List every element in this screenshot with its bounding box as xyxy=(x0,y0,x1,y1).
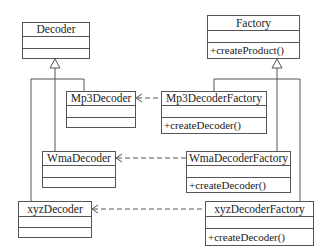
attributes-compartment xyxy=(206,217,313,229)
attributes-compartment xyxy=(187,166,290,178)
class-name: Factory xyxy=(208,16,299,31)
operation: +createProduct() xyxy=(208,43,299,58)
class-name: Decoder xyxy=(23,23,89,37)
attributes-compartment xyxy=(208,31,299,43)
attributes-compartment xyxy=(162,106,266,118)
class-wmadecoderfactory[interactable]: WmaDecoderFactory +createDecoder() xyxy=(186,151,291,193)
generalization-arrow-decoder xyxy=(50,59,60,68)
attributes-compartment xyxy=(19,217,91,228)
class-mp3decoder[interactable]: Mp3Decoder xyxy=(66,91,136,128)
class-xyzdecoder[interactable]: xyzDecoder xyxy=(18,201,92,238)
class-name: WmaDecoder xyxy=(43,152,115,166)
class-name: xyzDecoder xyxy=(19,202,91,217)
attributes-compartment xyxy=(43,166,115,178)
attributes-compartment xyxy=(67,106,135,118)
class-name: Mp3Decoder xyxy=(67,92,135,106)
attributes-compartment xyxy=(23,37,89,49)
class-mp3decoderfactory[interactable]: Mp3DecoderFactory +createDecoder() xyxy=(161,91,267,134)
class-name: WmaDecoderFactory xyxy=(187,152,290,166)
class-wmadecoder[interactable]: WmaDecoder xyxy=(42,151,116,188)
operation: +createDecoder() xyxy=(187,178,290,193)
class-name: Mp3DecoderFactory xyxy=(162,92,266,106)
class-name: xyzDecoderFactory xyxy=(206,202,313,217)
operation: +createDecoder() xyxy=(206,229,313,245)
generalization-arrow-factory xyxy=(272,59,282,68)
class-decoder[interactable]: Decoder xyxy=(22,22,90,59)
operation: +createDecoder() xyxy=(162,118,266,133)
class-xyzdecoderfactory[interactable]: xyzDecoderFactory +createDecoder() xyxy=(205,201,314,246)
class-factory[interactable]: Factory +createProduct() xyxy=(207,15,300,59)
